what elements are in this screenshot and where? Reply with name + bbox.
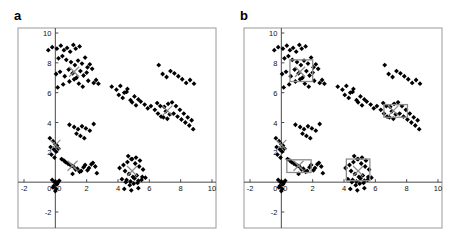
y-tick-label: 6 [47, 89, 51, 98]
scatter-point [287, 82, 292, 87]
scatter-point [134, 103, 139, 108]
scatter-point [347, 163, 352, 168]
scatter-point [152, 107, 157, 112]
scatter-point [83, 126, 88, 131]
scatter-point [349, 169, 354, 174]
scatter-point [294, 49, 299, 54]
scatter-point [362, 186, 367, 191]
scatter-point [367, 167, 372, 172]
scatter-point [177, 107, 182, 112]
scatter-point [160, 72, 165, 77]
scatter-point [180, 77, 185, 82]
scatter-point [322, 81, 327, 86]
y-tick-label: 10 [269, 29, 277, 38]
x-tick-label: 8 [179, 184, 183, 193]
scatter-point [348, 186, 353, 191]
scatter-point [96, 81, 101, 86]
y-tick-label: 0 [273, 184, 277, 193]
y-tick-label: 8 [273, 59, 277, 68]
scatter-point [156, 63, 161, 68]
scatter-point [316, 66, 321, 71]
scatter-point [61, 82, 66, 87]
scatter-point [80, 61, 85, 66]
scatter-point [313, 128, 318, 133]
scatter-point [127, 183, 132, 188]
scatter-points [272, 43, 423, 194]
scatter-point [78, 134, 83, 139]
scatter-point [353, 183, 358, 188]
scatter-point [68, 49, 73, 54]
scatter-point [117, 166, 122, 171]
scatter-point [90, 66, 95, 71]
scatter-point [401, 114, 406, 119]
scatter-point [183, 120, 188, 125]
scatter-point [340, 87, 345, 92]
y-tick-label: 4 [273, 119, 277, 128]
scatter-point [273, 136, 278, 141]
scatter-point [306, 61, 311, 66]
scatter-point [390, 75, 395, 80]
scatter-point [414, 78, 419, 83]
scatter-point [188, 78, 193, 83]
scatter-point [137, 164, 142, 169]
y-tick-label: 6 [273, 89, 277, 98]
bounding-boxes [287, 60, 408, 181]
scatter-point [302, 127, 307, 132]
scatter-point [74, 131, 79, 136]
scatter-point [299, 46, 304, 51]
scatter-point [76, 58, 81, 63]
scatter-point [346, 95, 351, 100]
scatter-point [413, 123, 418, 128]
scatter-point [81, 73, 86, 78]
scatter-point [286, 54, 291, 59]
scatter-point [306, 84, 311, 89]
scatter-point [378, 107, 383, 112]
scatter-point [52, 155, 57, 160]
scatter-point [70, 172, 75, 177]
scatter-point [126, 154, 131, 159]
scatter-point [303, 44, 308, 49]
scatter-point [392, 101, 397, 106]
scatter-point [319, 164, 324, 169]
scatter-point [344, 84, 349, 89]
scatter-point [76, 127, 81, 132]
scatter-point [304, 134, 309, 139]
scatter-point [280, 72, 285, 77]
scatter-point [358, 94, 363, 99]
scatter-point [394, 69, 399, 74]
y-tick-label: 0 [47, 184, 51, 193]
scatter-point [82, 136, 87, 141]
scatter-point [129, 188, 134, 193]
scatter-point [174, 104, 179, 109]
scatter-point [185, 115, 190, 120]
scatter-point [122, 186, 127, 191]
scatter-point [406, 77, 411, 82]
scatter-point [415, 118, 420, 123]
x-tick-label: 10 [434, 184, 442, 193]
scatter-point [134, 155, 139, 160]
x-tick-label: 4 [116, 184, 120, 193]
scatter-point [121, 163, 126, 168]
scatter-point [276, 45, 281, 50]
scatter-point [302, 58, 307, 63]
y-tick-label: 4 [47, 119, 51, 128]
scatter-point [320, 171, 325, 176]
x-tick-label: -2 [21, 184, 28, 193]
scatter-point [120, 177, 125, 182]
scatter-point [155, 101, 160, 106]
scatter-point [58, 69, 63, 74]
scatter-point [47, 136, 52, 141]
scatter-point [80, 84, 85, 89]
scatter-point [73, 46, 78, 51]
scatter-point [297, 43, 302, 48]
scatter-point [398, 71, 403, 76]
scatter-points [46, 43, 197, 194]
scatter-point [309, 126, 314, 131]
scatter-point [60, 54, 65, 59]
scatter-point [360, 103, 365, 108]
scatter-point [166, 101, 171, 106]
scatter-point [352, 154, 357, 159]
scatter-point [130, 157, 135, 162]
scatter-point [62, 74, 67, 79]
scatter-point [78, 69, 83, 74]
